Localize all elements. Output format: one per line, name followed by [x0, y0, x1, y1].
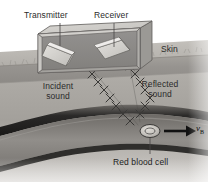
reflected-sound-label-line1: Reflected	[135, 79, 185, 89]
transmitter-label: Transmitter	[24, 10, 68, 20]
blood-velocity-symbol: vB	[196, 123, 204, 135]
receiver-label: Receiver	[94, 10, 128, 20]
right-fade	[188, 40, 208, 182]
red-blood-cell	[140, 125, 160, 138]
incident-sound-label-line1: Incident	[35, 81, 81, 91]
red-blood-cell-label: Red blood cell	[113, 157, 168, 167]
bottom-fade	[0, 158, 208, 182]
doppler-ultrasound-figure: Transmitter Receiver Skin Incident sound…	[0, 0, 208, 182]
velocity-symbol-subscript: B	[200, 129, 204, 135]
incident-sound-label-line2: sound	[35, 91, 81, 101]
ultrasound-transducer-probe	[38, 21, 152, 73]
reflected-sound-label-line2: sound	[135, 89, 185, 99]
skin-label: Skin	[161, 44, 178, 54]
